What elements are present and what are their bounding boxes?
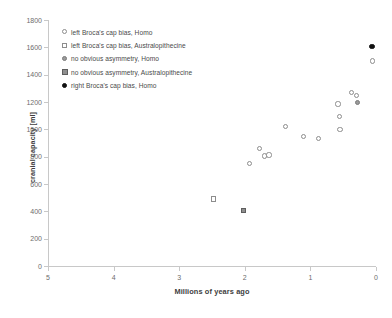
data-point (369, 44, 374, 49)
y-tick-label: 400 (14, 208, 42, 215)
x-tick-label: 1 (300, 274, 320, 281)
y-tick-label: 600 (14, 181, 42, 188)
legend-marker-square-open (62, 43, 67, 48)
y-tick-label: 1800 (14, 17, 42, 24)
x-tick-label: 2 (235, 274, 255, 281)
y-tick-label: 1200 (14, 99, 42, 106)
legend-item-label: right Broca's cap bias, Homo (71, 82, 156, 89)
legend-item-label: no obvious asymmetry, Homo (71, 55, 159, 62)
data-point (266, 152, 271, 157)
legend-item-label: left Broca's cap bias, Homo (71, 29, 152, 36)
data-point (247, 161, 252, 166)
plot-area (0, 0, 392, 318)
x-axis-line (48, 266, 376, 267)
scatter-chart: cranial capacity [ml] Millions of years … (0, 0, 392, 318)
y-tick-label: 1400 (14, 71, 42, 78)
y-tick-mark (44, 102, 48, 103)
y-tick-mark (44, 20, 48, 21)
x-tick-mark (48, 267, 49, 271)
y-axis-line (48, 20, 49, 266)
legend-marker-circle-black (62, 83, 67, 88)
data-point (337, 114, 342, 119)
data-point (301, 134, 306, 139)
data-point (335, 101, 340, 106)
y-tick-mark (44, 184, 48, 185)
x-tick-mark (310, 267, 311, 271)
x-tick-mark (179, 267, 180, 271)
x-tick-label: 0 (366, 274, 386, 281)
data-point (283, 124, 288, 129)
y-tick-label: 1000 (14, 126, 42, 133)
y-tick-mark (44, 211, 48, 212)
y-axis-title: cranial capacity [ml] (28, 68, 37, 228)
data-point (370, 58, 375, 63)
legend-marker-square-gray (62, 69, 68, 75)
data-point (354, 93, 359, 98)
data-point (241, 208, 247, 214)
y-tick-label: 0 (14, 263, 42, 270)
y-tick-label: 200 (14, 235, 42, 242)
y-tick-mark (44, 157, 48, 158)
x-tick-label: 4 (104, 274, 124, 281)
y-tick-label: 800 (14, 153, 42, 160)
data-point (211, 196, 216, 201)
y-tick-mark (44, 75, 48, 76)
y-tick-mark (44, 47, 48, 48)
y-tick-mark (44, 239, 48, 240)
x-tick-mark (114, 267, 115, 271)
x-axis-title: Millions of years ago (48, 287, 376, 296)
x-tick-mark (245, 267, 246, 271)
y-tick-mark (44, 129, 48, 130)
y-tick-label: 1600 (14, 44, 42, 51)
legend-marker-circle-gray (62, 56, 67, 61)
data-point (355, 100, 360, 105)
legend-item-label: no obvious asymmetry, Australopithecine (71, 69, 192, 76)
data-point (337, 127, 342, 132)
legend-marker-circle-open (62, 29, 67, 34)
x-tick-label: 3 (169, 274, 189, 281)
legend-item-label: left Broca's cap bias, Australopithecine (71, 42, 186, 49)
x-tick-label: 5 (38, 274, 58, 281)
data-point (257, 146, 262, 151)
data-point (316, 136, 321, 141)
x-tick-mark (376, 267, 377, 271)
